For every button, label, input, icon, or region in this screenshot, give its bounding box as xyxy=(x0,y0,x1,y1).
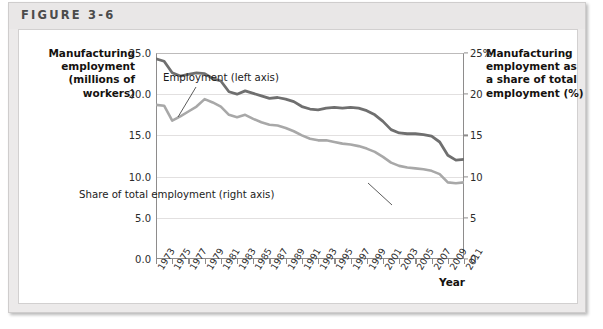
share-line xyxy=(156,99,464,183)
right-tick-mark xyxy=(464,217,468,218)
annotation-share: Share of total employment (right axis) xyxy=(79,189,274,200)
left-tick-label: 10.0 xyxy=(129,171,151,182)
left-axis-title-line-2: employment xyxy=(27,60,135,73)
share-leader-line xyxy=(368,183,392,205)
right-tick-label: 20 xyxy=(470,89,483,100)
left-axis-title: Manufacturing employment (millions of wo… xyxy=(27,47,135,100)
left-tick-label: 20.0 xyxy=(129,89,151,100)
right-tick-mark xyxy=(464,94,468,95)
right-axis-title: Manufacturing employment as a share of t… xyxy=(486,47,586,100)
right-tick-label: 25% xyxy=(470,48,492,59)
chart-plot-area: 0.05.010.015.020.025.0 0510152025% 19731… xyxy=(156,53,464,259)
annotation-employment: Employment (left axis) xyxy=(163,72,279,83)
right-tick-mark xyxy=(464,135,468,136)
right-axis-title-line-1: Manufacturing xyxy=(486,47,586,60)
left-tick-label: 25.0 xyxy=(129,48,151,59)
left-tick-label: 15.0 xyxy=(129,130,151,141)
figure-header-band: FIGURE 3-6 xyxy=(9,3,585,29)
left-axis-title-line-1: Manufacturing xyxy=(27,47,135,60)
right-axis-title-line-4: employment (%) xyxy=(486,87,586,100)
right-axis-title-line-2: employment as xyxy=(486,60,586,73)
left-tick-label: 5.0 xyxy=(135,212,151,223)
right-axis-title-line-3: a share of total xyxy=(486,73,586,86)
figure-label: FIGURE 3-6 xyxy=(21,8,115,22)
series-lines xyxy=(156,53,464,259)
right-tick-label: 10 xyxy=(470,171,483,182)
left-axis-title-line-4: workers) xyxy=(27,87,135,100)
left-tick-label: 0.0 xyxy=(135,254,151,265)
right-tick-label: 15 xyxy=(470,130,483,141)
x-axis-title: Year xyxy=(439,276,465,288)
figure-panel: Manufacturing employment (millions of wo… xyxy=(18,29,578,304)
figure-frame: FIGURE 3-6 Manufacturing employment (mil… xyxy=(8,2,586,313)
right-tick-mark xyxy=(464,52,468,53)
right-tick-label: 5 xyxy=(470,212,476,223)
left-axis-title-line-3: (millions of xyxy=(27,73,135,86)
right-tick-mark xyxy=(464,176,468,177)
